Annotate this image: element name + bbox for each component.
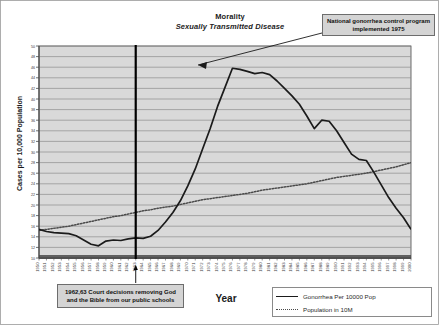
svg-text:1990: 1990 — [333, 262, 338, 272]
svg-text:10: 10 — [31, 257, 35, 261]
svg-text:24: 24 — [31, 182, 35, 186]
svg-text:38: 38 — [31, 108, 35, 112]
svg-text:1989: 1989 — [325, 262, 330, 272]
svg-text:50: 50 — [31, 45, 35, 49]
svg-text:14: 14 — [31, 235, 35, 239]
svg-text:1970: 1970 — [184, 262, 189, 272]
svg-text:36: 36 — [31, 119, 35, 123]
legend-label-population: Population in 10M — [303, 306, 353, 313]
svg-text:1964: 1964 — [139, 262, 144, 272]
svg-text:1952: 1952 — [50, 262, 55, 272]
chart-page: Morality Sexually Transmitted Disease 10… — [0, 0, 439, 325]
svg-text:2000: 2000 — [407, 262, 412, 272]
svg-text:1969: 1969 — [176, 262, 181, 272]
chart-canvas: 1012141618202224262830323436384042444648… — [0, 0, 439, 325]
svg-text:46: 46 — [31, 66, 35, 70]
svg-text:1988: 1988 — [318, 262, 323, 272]
svg-text:1992: 1992 — [347, 262, 352, 272]
legend-item-gonorrhea: Gonorrhea Per 10000 Pop — [276, 290, 428, 303]
svg-text:1960: 1960 — [109, 262, 114, 272]
svg-text:1965: 1965 — [147, 262, 152, 272]
svg-text:1968: 1968 — [169, 262, 174, 272]
legend-swatch-solid-icon — [276, 293, 298, 301]
svg-text:12: 12 — [31, 246, 35, 250]
svg-text:1962: 1962 — [124, 262, 129, 272]
x-axis-band — [39, 255, 411, 259]
svg-text:1957: 1957 — [87, 262, 92, 272]
svg-text:1996: 1996 — [377, 262, 382, 272]
svg-text:28: 28 — [31, 161, 35, 165]
y-gridlines — [39, 46, 411, 258]
svg-text:1997: 1997 — [385, 262, 390, 272]
svg-text:20: 20 — [31, 204, 35, 208]
svg-text:1999: 1999 — [400, 262, 405, 272]
svg-text:1953: 1953 — [57, 262, 62, 272]
svg-text:1991: 1991 — [340, 262, 345, 272]
svg-text:1975: 1975 — [221, 262, 226, 272]
svg-text:34: 34 — [31, 129, 35, 133]
svg-text:1998: 1998 — [392, 262, 397, 272]
svg-text:1994: 1994 — [362, 262, 367, 272]
svg-text:30: 30 — [31, 151, 35, 155]
svg-text:1980: 1980 — [258, 262, 263, 272]
svg-text:48: 48 — [31, 55, 35, 59]
svg-text:40: 40 — [31, 98, 35, 102]
svg-text:26: 26 — [31, 172, 35, 176]
x-axis-title: Year — [196, 293, 256, 304]
svg-text:18: 18 — [31, 214, 35, 218]
svg-text:1954: 1954 — [65, 262, 70, 272]
chart-legend: Gonorrhea Per 10000 Pop Population in 10… — [272, 287, 432, 317]
svg-text:1979: 1979 — [251, 262, 256, 272]
svg-text:16: 16 — [31, 225, 35, 229]
svg-text:1977: 1977 — [236, 262, 241, 272]
y-tick-labels: 1012141618202224262830323436384042444648… — [31, 45, 39, 261]
svg-text:1973: 1973 — [206, 262, 211, 272]
legend-swatch-dotted-icon — [276, 306, 298, 314]
svg-text:1981: 1981 — [266, 262, 271, 272]
svg-text:1978: 1978 — [243, 262, 248, 272]
svg-text:1986: 1986 — [303, 262, 308, 272]
svg-text:1958: 1958 — [95, 262, 100, 272]
legend-label-gonorrhea: Gonorrhea Per 10000 Pop — [303, 293, 376, 300]
svg-text:1974: 1974 — [214, 262, 219, 272]
court-decisions-callout: 1962,63 Court decisions removing God and… — [57, 284, 184, 308]
svg-text:1955: 1955 — [72, 262, 77, 272]
svg-text:1987: 1987 — [310, 262, 315, 272]
svg-text:22: 22 — [31, 193, 35, 197]
svg-text:1963: 1963 — [132, 262, 137, 272]
svg-text:1966: 1966 — [154, 262, 159, 272]
y-axis-title: Cases per 10,000 Population — [16, 89, 23, 199]
svg-text:1984: 1984 — [288, 262, 293, 272]
svg-text:1972: 1972 — [199, 262, 204, 272]
svg-text:42: 42 — [31, 87, 35, 91]
svg-text:44: 44 — [31, 76, 35, 80]
svg-text:1967: 1967 — [161, 262, 166, 272]
svg-text:1983: 1983 — [281, 262, 286, 272]
svg-text:1982: 1982 — [273, 262, 278, 272]
svg-text:32: 32 — [31, 140, 35, 144]
svg-text:1959: 1959 — [102, 262, 107, 272]
svg-text:1950: 1950 — [35, 262, 40, 272]
svg-text:1951: 1951 — [42, 262, 47, 272]
svg-text:1995: 1995 — [370, 262, 375, 272]
svg-text:1976: 1976 — [228, 262, 233, 272]
svg-text:1971: 1971 — [191, 262, 196, 272]
svg-text:1985: 1985 — [295, 262, 300, 272]
x-tick-labels: 1950195119521953195419551956195719581959… — [35, 262, 412, 272]
svg-text:1956: 1956 — [80, 262, 85, 272]
gonorrhea-program-callout: National gonorrhea control program imple… — [322, 14, 435, 36]
legend-item-population: Population in 10M — [276, 303, 428, 316]
svg-text:1961: 1961 — [117, 262, 122, 272]
svg-text:1993: 1993 — [355, 262, 360, 272]
